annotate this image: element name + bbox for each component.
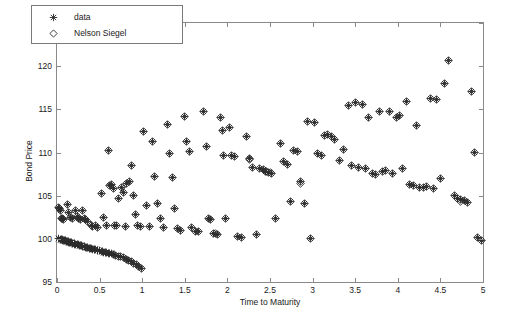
y-tick-label: 120: [38, 61, 52, 71]
x-tick: [483, 278, 484, 282]
x-tick-top: [270, 23, 271, 27]
x-tick: [185, 278, 186, 282]
x-tick: [227, 278, 228, 282]
x-tick-top: [185, 23, 186, 27]
y-tick-right: [479, 282, 483, 283]
legend-label-data: data: [74, 12, 91, 22]
x-tick-label: 1: [140, 285, 145, 295]
star-marker-icon: [32, 13, 74, 22]
x-tick: [100, 278, 101, 282]
y-tick: [57, 239, 61, 240]
x-tick-label: 0.5: [94, 285, 106, 295]
x-tick-label: 3.5: [349, 285, 361, 295]
x-tick-label: 2: [225, 285, 230, 295]
x-tick-label: 5: [481, 285, 486, 295]
x-tick: [313, 278, 314, 282]
x-tick-top: [440, 23, 441, 27]
x-tick: [440, 278, 441, 282]
x-tick: [355, 278, 356, 282]
y-tick-right: [479, 109, 483, 110]
y-tick: [57, 66, 61, 67]
x-tick: [57, 278, 58, 282]
x-tick-label: 4: [395, 285, 400, 295]
legend-entry-data: data: [32, 9, 182, 25]
legend-label-nelson-siegel: Nelson Siegel: [74, 28, 126, 38]
y-tick: [57, 196, 61, 197]
y-tick-right: [479, 239, 483, 240]
y-tick-right: [479, 196, 483, 197]
plot-area: 9510010511011512012500.511.522.533.544.5…: [56, 22, 484, 283]
y-tick: [57, 153, 61, 154]
y-tick-label: 115: [38, 104, 52, 114]
diamond-marker-icon: [32, 29, 74, 38]
y-tick-label: 100: [38, 234, 52, 244]
x-tick-label: 0: [55, 285, 60, 295]
x-tick-label: 2.5: [264, 285, 276, 295]
x-tick-label: 1.5: [179, 285, 191, 295]
x-axis-title: Time to Maturity: [56, 297, 484, 307]
y-tick-label: 95: [43, 277, 52, 287]
y-tick: [57, 282, 61, 283]
x-tick-top: [227, 23, 228, 27]
y-tick-label: 110: [38, 148, 52, 158]
legend: data Nelson Siegel: [31, 5, 183, 44]
x-tick: [142, 278, 143, 282]
x-tick-top: [483, 23, 484, 27]
x-tick-label: 3: [310, 285, 315, 295]
y-tick-right: [479, 66, 483, 67]
x-tick-top: [398, 23, 399, 27]
x-tick-label: 4.5: [434, 285, 446, 295]
x-tick-top: [313, 23, 314, 27]
y-tick-right: [479, 153, 483, 154]
x-tick-top: [355, 23, 356, 27]
y-tick-label: 105: [38, 191, 52, 201]
figure: Bond Price Time to Maturity 951001051101…: [0, 0, 510, 321]
y-tick: [57, 109, 61, 110]
legend-entry-nelson-siegel: Nelson Siegel: [32, 25, 182, 41]
y-axis-title: Bond Price: [24, 140, 34, 182]
scatter-data-layer: [57, 23, 483, 282]
x-tick: [398, 278, 399, 282]
x-tick: [270, 278, 271, 282]
